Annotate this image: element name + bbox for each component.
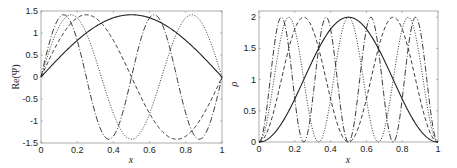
y-tick-labels-left: -1.5-1-0.500.511.5 <box>22 6 38 148</box>
x-tick-label: 0 <box>38 145 43 155</box>
x-tick-label: 1 <box>435 144 440 154</box>
y-tick-labels-right: 00.511.52 <box>243 12 256 147</box>
curves-left <box>41 15 222 139</box>
figure: -1.5-1-0.500.511.5 00.20.40.60.81 x Re(Ψ… <box>0 0 457 168</box>
y-tick-label: 1.5 <box>25 6 38 16</box>
chart-left-re-psi: -1.5-1-0.500.511.5 00.20.40.60.81 x Re(Ψ… <box>10 6 225 165</box>
y-tick-label: 0.5 <box>243 106 256 116</box>
x-tick-label: 0.2 <box>289 144 302 154</box>
x-tick-labels-right: 00.20.40.60.81 <box>256 144 440 154</box>
y-tick-label: 0.5 <box>25 50 38 60</box>
curve-dashed-n2 <box>41 15 222 139</box>
y-tick-label: 0 <box>251 137 256 147</box>
y-axis-label-left: Re(Ψ) <box>10 64 22 89</box>
y-tick-label: 2 <box>251 12 256 22</box>
x-tick-label: 0.6 <box>143 145 156 155</box>
y-tick-label: 0 <box>33 72 38 82</box>
y-tick-label: 1 <box>251 75 256 85</box>
x-tick-label: 0.8 <box>396 144 409 154</box>
y-tick-label: 1.5 <box>243 43 256 53</box>
y-axis-label-right: ρ <box>228 81 239 87</box>
x-tick-label: 0.2 <box>71 145 84 155</box>
x-tick-label: 1 <box>219 145 224 155</box>
curve-dash-dot-n4 <box>259 17 438 142</box>
x-tick-label: 0.4 <box>107 145 120 155</box>
y-tick-label: -1 <box>30 116 38 126</box>
x-tick-label: 0.8 <box>180 145 193 155</box>
y-tick-label: -1.5 <box>22 138 38 148</box>
x-axis-label-left: x <box>128 154 134 165</box>
y-tick-label: 1 <box>33 28 38 38</box>
y-tick-label: -0.5 <box>22 94 38 104</box>
curve-dotted-n3 <box>259 17 438 142</box>
curve-dashed-n2 <box>259 17 438 142</box>
curve-solid-n1 <box>41 15 222 77</box>
curves-right <box>259 17 438 142</box>
curve-solid-n1 <box>259 17 438 142</box>
x-tick-label: 0.6 <box>360 144 373 154</box>
x-tick-label: 0.4 <box>324 144 337 154</box>
chart-right-rho: 00.511.52 00.20.40.60.81 x ρ <box>228 11 441 165</box>
x-tick-label: 0 <box>256 144 261 154</box>
x-axis-label-right: x <box>345 154 351 165</box>
